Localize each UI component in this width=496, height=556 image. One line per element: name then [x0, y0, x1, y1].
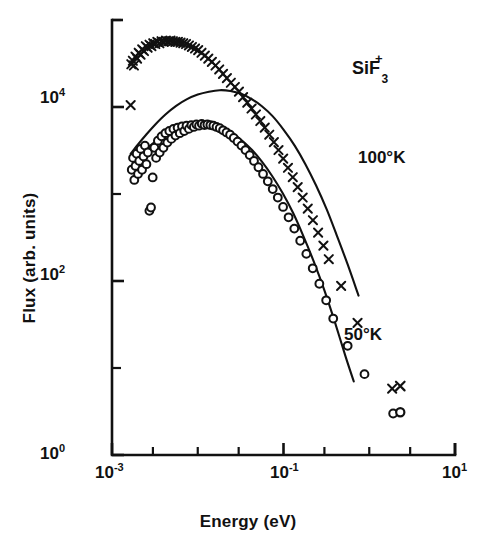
chart-plot-area: [0, 0, 496, 556]
x-tick-label-1e-3: 10-3: [95, 463, 124, 483]
figure-container: Flux (arb. units) Energy (eV) 104 102 10…: [0, 0, 496, 556]
y-tick-mantissa: 10: [40, 88, 59, 107]
x-tick-label-1e-1: 10-1: [270, 463, 299, 483]
x-tick-mantissa: 10: [270, 463, 289, 482]
y-tick-mantissa: 10: [40, 444, 59, 463]
y-axis-title: Flux (arb. units): [20, 158, 40, 358]
x-axis-title: Energy (eV): [0, 512, 496, 532]
y-tick-exponent: 0: [59, 442, 65, 454]
species-subscript: 3: [382, 72, 389, 86]
fit-curve-50k: [133, 124, 354, 382]
y-tick-label-1e4: 104: [40, 88, 65, 108]
x-tick-exponent: -3: [114, 461, 124, 473]
species-label: SiF+3: [352, 58, 394, 79]
x-tick-exponent: 1: [461, 461, 467, 473]
x-tick-mantissa: 10: [442, 463, 461, 482]
y-tick-mantissa: 10: [40, 265, 59, 284]
y-tick-label-1e2: 102: [40, 265, 65, 285]
x-tick-mantissa: 10: [95, 463, 114, 482]
y-tick-exponent: 2: [59, 263, 65, 275]
outlier-markers: [396, 382, 405, 417]
x-tick-exponent: -1: [289, 461, 299, 473]
series-50k-markers: [128, 120, 397, 417]
x-tick-label-1e1: 101: [442, 463, 467, 483]
species-charge: +: [375, 51, 383, 66]
fit-curve-100k: [131, 90, 359, 295]
y-tick-exponent: 4: [59, 86, 65, 98]
series-label-100k: 100°K: [358, 148, 405, 168]
y-tick-label-1e0: 100: [40, 444, 65, 464]
series-label-50k: 50°K: [344, 325, 382, 345]
